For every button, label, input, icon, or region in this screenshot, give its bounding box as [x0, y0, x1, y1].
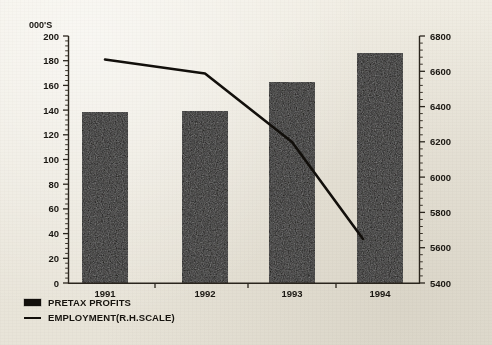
right-tick-label: 5400 [430, 278, 451, 289]
bar-1994 [357, 53, 403, 283]
left-tick-label: 20 [48, 253, 59, 264]
chart-canvas: 000'S 200 180 160 140 120 100 80 60 40 2… [0, 0, 492, 345]
legend-item-employment: EMPLOYMENT(R.H.SCALE) [24, 311, 175, 324]
x-tick-label: 1994 [369, 288, 391, 299]
x-tick-label: 1993 [281, 288, 302, 299]
left-tick-label: 40 [48, 228, 59, 239]
chart-page: 000'S 200 180 160 140 120 100 80 60 40 2… [0, 0, 492, 345]
x-tick-label: 1992 [194, 288, 215, 299]
legend-item-pretax-profits: PRETAX PROFITS [24, 296, 175, 309]
legend-label: PRETAX PROFITS [48, 297, 131, 308]
left-tick-label: 0 [54, 278, 59, 289]
left-tick-label: 200 [43, 31, 59, 42]
left-tick-label: 140 [43, 105, 59, 116]
left-tick-label: 120 [43, 129, 59, 140]
bar-1993 [269, 82, 315, 283]
combo-chart-svg: 000'S 200 180 160 140 120 100 80 60 40 2… [0, 0, 492, 345]
right-tick-label: 5800 [430, 207, 451, 218]
right-tick-label: 5600 [430, 242, 451, 253]
left-tick-label: 160 [43, 80, 59, 91]
legend-label: EMPLOYMENT(R.H.SCALE) [48, 312, 175, 323]
legend-line-swatch-icon [24, 317, 41, 319]
left-tick-labels: 200 180 160 140 120 100 80 60 40 20 0 [43, 31, 59, 289]
left-tick-label: 80 [48, 179, 59, 190]
right-tick-label: 6800 [430, 31, 451, 42]
left-axis [63, 36, 69, 284]
right-tick-label: 6200 [430, 136, 451, 147]
right-axis [420, 36, 426, 284]
right-tick-label: 6600 [430, 66, 451, 77]
bar-1992 [182, 111, 228, 283]
bar-series-pretax-profits [82, 53, 403, 283]
left-tick-label: 60 [48, 203, 59, 214]
right-tick-label: 6400 [430, 101, 451, 112]
bar-1991 [82, 112, 128, 283]
line-series-employment [105, 60, 363, 240]
right-tick-labels: 6800 6600 6400 6200 6000 5800 5600 5400 [430, 31, 451, 289]
left-tick-label: 100 [43, 154, 59, 165]
left-tick-label: 180 [43, 55, 59, 66]
chart-legend: PRETAX PROFITS EMPLOYMENT(R.H.SCALE) [24, 296, 175, 326]
right-tick-label: 6000 [430, 172, 451, 183]
legend-bar-swatch-icon [24, 299, 41, 306]
y-axis-unit-label: 000'S [29, 20, 52, 30]
x-axis [68, 283, 420, 288]
